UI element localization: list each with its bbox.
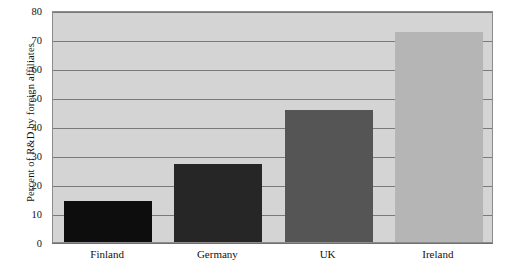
y-axis-tick-label: 70 bbox=[32, 35, 43, 46]
x-axis-category-label: Germany bbox=[197, 248, 238, 260]
y-axis-tick-label: 40 bbox=[32, 122, 43, 133]
x-axis-category-labels: FinlandGermanyUKIreland bbox=[52, 248, 493, 268]
plot-area bbox=[52, 11, 493, 243]
x-axis-category-label: UK bbox=[320, 248, 336, 260]
x-axis-category-label: Ireland bbox=[422, 248, 453, 260]
y-axis-tick-label: 20 bbox=[32, 180, 43, 191]
bar bbox=[174, 164, 262, 242]
y-axis-tick-label: 80 bbox=[32, 6, 43, 17]
bar bbox=[285, 110, 373, 242]
bars-group bbox=[53, 12, 492, 242]
y-axis-tick-labels: 01020304050607080 bbox=[0, 11, 46, 243]
bar bbox=[395, 32, 483, 242]
bar bbox=[64, 201, 152, 242]
y-axis-tick-label: 30 bbox=[32, 151, 43, 162]
y-axis-tick-label: 0 bbox=[37, 238, 42, 249]
y-axis-tick-label: 50 bbox=[32, 93, 43, 104]
y-axis-tick-label: 10 bbox=[32, 209, 43, 220]
y-axis-tick-label: 60 bbox=[32, 64, 43, 75]
x-axis-line bbox=[52, 243, 493, 244]
x-axis-category-label: Finland bbox=[90, 248, 124, 260]
bar-chart: Percent of R&D by foreign affiliates 010… bbox=[0, 0, 510, 274]
